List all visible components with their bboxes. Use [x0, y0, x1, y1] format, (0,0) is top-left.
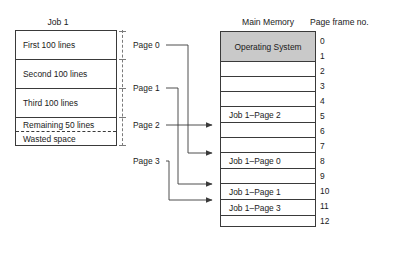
memory-row-job1-page3: Job 1–Page 3 [221, 200, 315, 216]
memory-row-operating-system: Operating System [221, 32, 315, 62]
frame-number-12: 12 [320, 216, 340, 226]
page-label-0: Page 0 [133, 41, 160, 49]
page-label-2: Page 2 [133, 121, 160, 129]
main-memory-block: Operating System Job 1–Page 2 Job 1–Page… [220, 31, 316, 227]
job-segment-first-100-lines: First 100 lines [16, 31, 116, 60]
memory-row-label: Job 1–Page 0 [229, 156, 281, 166]
frame-number-4: 4 [320, 96, 340, 106]
page-boundary-tick [119, 145, 126, 146]
connector-page0-to-frame8 [166, 45, 212, 153]
frame-number-11: 11 [320, 201, 340, 211]
page-label-1: Page 1 [133, 84, 160, 92]
job-segment-remaining-50-lines: Remaining 50 lines [16, 118, 116, 132]
memory-row-empty-frame-3 [221, 77, 315, 92]
frame-number-10: 10 [320, 186, 340, 196]
job-segment-second-100-lines: Second 100 lines [16, 60, 116, 89]
memory-row-label: Job 1–Page 1 [229, 187, 281, 197]
frame-number-2: 2 [320, 66, 340, 76]
memory-row-empty-frame-4 [221, 92, 315, 107]
memory-row-job1-page1: Job 1–Page 1 [221, 184, 315, 200]
memory-row-empty-frame-9 [221, 169, 315, 184]
job-segment-label: Wasted space [23, 134, 76, 144]
frame-number-1: 1 [320, 51, 340, 61]
memory-row-empty-frame-2 [221, 62, 315, 77]
frame-number-8: 8 [320, 156, 340, 166]
memory-row-job1-page2: Job 1–Page 2 [221, 107, 315, 123]
memory-row-label: Job 1–Page 3 [229, 203, 281, 213]
page-frame-no-title: Page frame no. [310, 18, 369, 27]
job-segment-label: Third 100 lines [23, 98, 78, 108]
main-memory-title: Main Memory [216, 18, 320, 27]
memory-row-label: Job 1–Page 2 [229, 110, 281, 120]
job-segment-label: Second 100 lines [23, 69, 87, 79]
job-title: Job 1 [0, 18, 116, 27]
page-boundary-tick [119, 88, 126, 89]
frame-number-5: 5 [320, 111, 340, 121]
page-boundary-tick [119, 117, 126, 118]
memory-row-empty-frame-7 [221, 138, 315, 153]
frame-number-9: 9 [320, 171, 340, 181]
frame-number-3: 3 [320, 81, 340, 91]
job-segment-wasted-space: Wasted space [16, 132, 116, 145]
memory-row-empty-frame-6 [221, 123, 315, 138]
memory-row-job1-page0: Job 1–Page 0 [221, 153, 315, 169]
frame-number-7: 7 [320, 141, 340, 151]
page-label-3: Page 3 [133, 157, 160, 165]
memory-row-empty-frame-12 [221, 216, 315, 226]
job-segment-label: Remaining 50 lines [23, 120, 94, 130]
job-segment-third-100-lines: Third 100 lines [16, 89, 116, 118]
connector-page1-to-frame10 [166, 88, 212, 184]
page-boundary-tick [119, 59, 126, 60]
frame-number-0: 0 [320, 36, 340, 46]
memory-row-label: Operating System [234, 42, 301, 52]
connector-page3-to-frame11 [166, 161, 212, 200]
job-segment-label: First 100 lines [23, 40, 75, 50]
job-block: First 100 lines Second 100 lines Third 1… [15, 30, 117, 146]
page-boundary-tick [119, 31, 126, 32]
frame-number-6: 6 [320, 126, 340, 136]
paged-memory-allocation-diagram: Job 1 First 100 lines Second 100 lines T… [0, 0, 397, 264]
